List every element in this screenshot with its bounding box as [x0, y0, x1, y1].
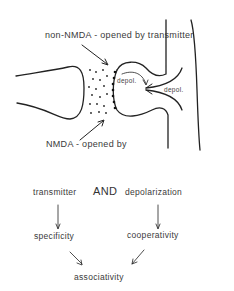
flow-transmitter: transmitter	[33, 187, 76, 197]
flow-depolarization: depolarization	[125, 187, 182, 197]
nmda-label: NMDA - opened by	[46, 139, 127, 149]
depol-outer-label: depol.	[164, 86, 184, 93]
transmitter-dots	[88, 69, 108, 114]
postsynaptic-spine	[117, 20, 166, 76]
flow-cooperativity: cooperativity	[127, 230, 179, 240]
depol-inner-label: depol.	[117, 77, 137, 84]
presynaptic-terminal	[16, 66, 84, 119]
non-nmda-label: non-NMDA - opened by transmitter	[45, 30, 194, 40]
flow-associativity: associativity	[74, 272, 124, 282]
flow-specificity: specificity	[34, 231, 74, 241]
flow-and: AND	[93, 185, 117, 197]
